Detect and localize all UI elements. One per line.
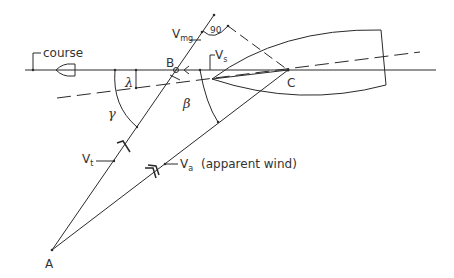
lambda-label: λ (124, 75, 133, 90)
point-c-dot (287, 69, 290, 72)
beta-end-dot (217, 121, 219, 123)
beta-arc (200, 70, 218, 122)
gamma-end-dot (136, 126, 138, 128)
course-label-leader (33, 53, 41, 70)
vs-label: Vs (215, 48, 227, 64)
sailing-vector-diagram: course 90 Vmg Vs B C λ γ β Vt (0, 0, 454, 278)
arc-end-dot (227, 25, 230, 28)
point-c-label: C (287, 76, 295, 90)
heading-dashed-line (57, 52, 420, 98)
point-a-label: A (45, 257, 54, 271)
course-label: course (43, 46, 83, 60)
apparent-wind-arrow-icon-1 (145, 168, 156, 178)
va-label: Va (180, 157, 193, 173)
lambda-top-dot (135, 69, 137, 71)
boat-hull (212, 30, 386, 95)
course-leader-dot (32, 69, 34, 71)
point-b-label: B (166, 56, 174, 70)
gamma-label: γ (108, 106, 116, 121)
vt-dot (113, 160, 115, 162)
vmg-perpendicular-dashed (228, 26, 288, 70)
gamma-start-dot (114, 69, 116, 71)
beta-start-dot (199, 69, 201, 71)
vmg-dot (201, 31, 204, 34)
right-angle-label: 90 (210, 25, 222, 35)
point-a-dot (51, 249, 54, 252)
beta-label: β (182, 96, 191, 111)
apparent-wind-label: (apparent wind) (201, 157, 297, 171)
vt-label: Vt (82, 152, 93, 168)
vmg-label: Vmg (172, 27, 193, 43)
top-vertex-dot (213, 14, 216, 17)
lambda-dot (135, 87, 137, 89)
